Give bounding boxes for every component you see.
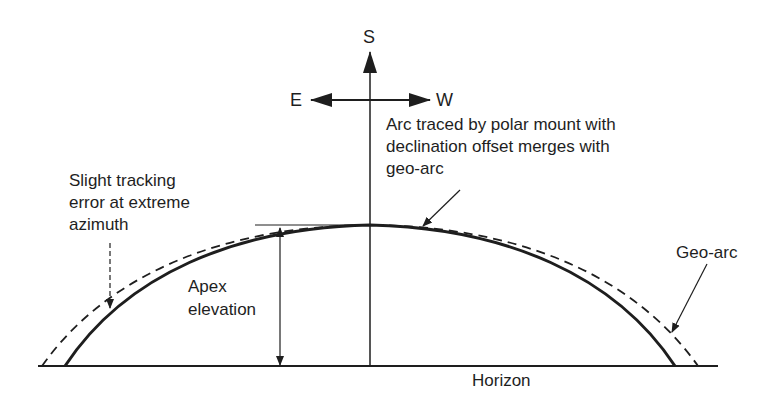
horizon-label: Horizon — [472, 370, 531, 391]
polar-mount-leader — [423, 190, 460, 226]
tracking-error-label-line2: error at extreme — [69, 192, 190, 213]
tracking-error-label-line1: Slight tracking — [69, 170, 176, 191]
compass-label-w: W — [436, 90, 453, 111]
geo-arc-leader — [672, 264, 707, 332]
apex-label-line1: Apex — [188, 276, 227, 297]
tracking-error-label-line3: azimuth — [69, 214, 129, 235]
diagram-canvas: S E W Arc traced by polar mount with dec… — [0, 0, 777, 408]
polar-mount-label-line2: declination offset merges with — [386, 136, 610, 157]
apex-label-line2: elevation — [188, 299, 256, 320]
polar-mount-label-line3: geo-arc — [386, 158, 444, 179]
compass-label-e: E — [290, 90, 302, 111]
polar-mount-label-line1: Arc traced by polar mount with — [386, 114, 616, 135]
compass-label-s: S — [363, 27, 375, 48]
geo-arc-label: Geo-arc — [676, 242, 737, 263]
